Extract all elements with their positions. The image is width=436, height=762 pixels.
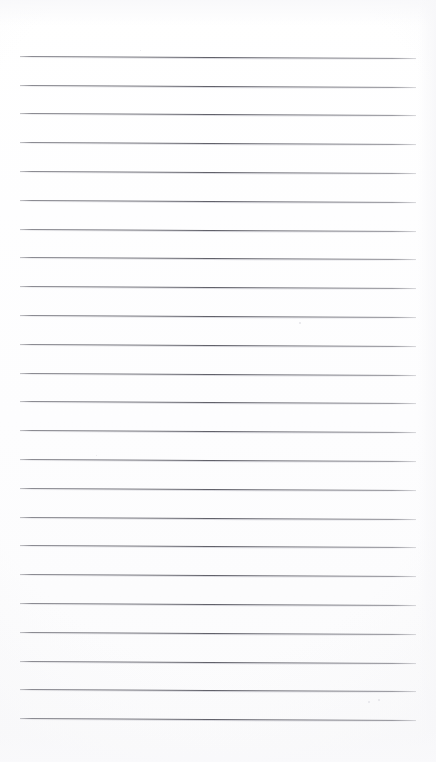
ruled-line	[20, 632, 416, 635]
ruled-line	[20, 430, 416, 433]
ruled-line	[20, 661, 416, 664]
ruled-line	[20, 171, 416, 174]
ruled-line	[20, 286, 416, 289]
ruled-line	[20, 603, 416, 606]
ruled-line	[20, 718, 416, 721]
ruled-line	[20, 315, 416, 318]
ruled-lines-group	[0, 0, 436, 762]
ruled-line	[20, 229, 416, 232]
ruled-line	[20, 401, 416, 404]
ruled-line	[20, 545, 416, 548]
ruled-line	[20, 113, 416, 116]
ruled-line	[20, 488, 416, 491]
ruled-line	[20, 517, 416, 520]
ruled-line	[20, 56, 416, 59]
notebook-page	[0, 0, 436, 762]
ruled-line	[20, 574, 416, 577]
ruled-line	[20, 200, 416, 203]
ruled-line	[20, 459, 416, 462]
ruled-line	[20, 85, 416, 88]
ruled-line	[20, 344, 416, 347]
ruled-line	[20, 142, 416, 145]
ruled-line	[20, 257, 416, 260]
ruled-line	[20, 373, 416, 376]
ruled-line	[20, 689, 416, 692]
